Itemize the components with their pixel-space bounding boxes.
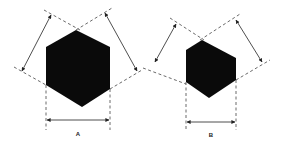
hexagon-a <box>46 30 110 107</box>
figure-b <box>143 14 270 130</box>
figure-a <box>14 8 142 130</box>
hexagon-b <box>186 40 236 98</box>
hexagon-diagram <box>0 0 282 147</box>
label-b: B <box>209 132 213 138</box>
label-a: A <box>76 131 80 137</box>
